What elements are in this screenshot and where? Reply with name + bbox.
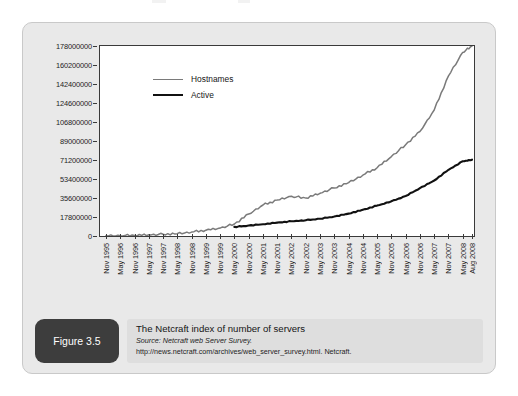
y-axis-tick-label: 106800000 [56,118,92,127]
y-axis-tick-mark [93,122,97,123]
x-axis-tick-label: Nov 2003 [330,243,339,274]
x-axis-tick-mark [135,234,136,239]
x-axis-tick-mark [149,234,150,239]
x-axis-tick-label: Nov 1996 [131,243,140,274]
y-axis-tick-mark [93,84,97,85]
y-axis-tick-label: 35600000 [60,194,92,203]
x-axis-tick-mark [334,234,335,239]
x-axis-tick-mark [120,234,121,239]
x-axis-tick-label: Nov 1995 [102,243,111,274]
legend-swatch-hostnames-icon [153,79,183,80]
legend-label-hostnames: Hostnames [191,74,233,84]
x-axis-tick-mark [249,234,250,239]
x-axis-tick-mark [163,234,164,239]
x-axis-tick-mark [472,234,473,239]
x-axis-tick-label: May 1997 [145,243,154,275]
x-axis-tick-mark [291,234,292,239]
y-axis-tick-label: 0 [88,232,92,241]
x-axis-tick-mark [463,234,464,239]
x-axis-tick-mark [448,234,449,239]
x-axis-tick-mark [434,234,435,239]
chart-legend: Hostnames Active [153,71,233,103]
x-axis-tick-label: Nov 2004 [359,243,368,274]
figure-number-badge: Figure 3.5 [35,319,119,363]
x-axis-tick-label: May 2001 [259,243,268,275]
legend-item-hostnames: Hostnames [153,71,233,87]
legend-label-active: Active [191,90,214,100]
y-axis-tick-mark [93,198,97,199]
series-line-active [234,160,472,227]
x-axis-tick-label: May 2005 [373,243,382,275]
x-axis-tick-mark [406,234,407,239]
y-axis-tick-mark [93,217,97,218]
y-axis-tick-label: 89000000 [60,137,92,146]
y-axis-tick-mark [93,46,97,47]
y-axis-tick-mark [93,160,97,161]
x-axis-tick-label: Nov 2005 [387,243,396,274]
x-axis-tick-mark [220,234,221,239]
y-axis: 0178000003560000053400000712000008900000… [23,45,97,237]
y-axis-tick-label: 71200000 [60,156,92,165]
chart-region: 0178000003560000053400000712000008900000… [23,23,497,311]
x-axis-tick-label: May 2007 [430,243,439,275]
x-axis-tick-mark [234,234,235,239]
x-axis-tick-label: Nov 2002 [302,243,311,274]
x-axis-tick-label: Nov 2006 [416,243,425,274]
x-axis: Nov 1995May 1996Nov 1996May 1997Nov 1997… [99,239,477,311]
figure-panel: 0178000003560000053400000712000008900000… [22,22,496,374]
x-axis-tick-label: Aug 2008 [468,243,477,274]
y-axis-tick-mark [93,141,97,142]
x-axis-tick-label: May 1998 [173,243,182,275]
x-axis-tick-label: May 2008 [459,243,468,275]
x-axis-tick-mark [391,234,392,239]
x-axis-tick-label: May 2000 [230,243,239,275]
x-axis-tick-label: Nov 1997 [159,243,168,274]
x-axis-tick-mark [377,234,378,239]
y-axis-tick-label: 53400000 [60,175,92,184]
x-axis-tick-mark [277,234,278,239]
x-axis-tick-mark [306,234,307,239]
y-axis-tick-label: 124600000 [56,99,92,108]
x-axis-tick-label: May 1999 [202,243,211,275]
x-axis-tick-label: May 2002 [287,243,296,275]
x-axis-tick-mark [177,234,178,239]
x-axis-tick-mark [192,234,193,239]
x-axis-tick-label: May 2004 [345,243,354,275]
x-axis-tick-label: Nov 2000 [245,243,254,274]
caption-source: Source: Netcraft web Server Survey. [136,335,475,346]
x-axis-tick-label: Nov 2007 [444,243,453,274]
y-axis-tick-label: 142400000 [56,80,92,89]
figure-number-label: Figure 3.5 [53,335,100,347]
x-axis-tick-label: Nov 1999 [216,243,225,274]
caption-url: http://news.netcraft.com/archives/web_se… [136,346,475,357]
figure-caption-bar: Figure 3.5 The Netcraft index of number … [35,319,483,363]
x-axis-tick-label: May 2006 [402,243,411,275]
legend-item-active: Active [153,87,233,103]
scan-artifact [152,0,166,3]
y-axis-tick-label: 178000000 [56,42,92,51]
caption-title: The Netcraft index of number of servers [136,323,475,335]
scan-artifact [238,0,250,3]
x-axis-tick-mark [420,234,421,239]
y-axis-tick-mark [93,103,97,104]
y-axis-tick-mark [93,179,97,180]
x-axis-tick-mark [206,234,207,239]
legend-swatch-active-icon [153,94,183,96]
x-axis-tick-label: May 1996 [116,243,125,275]
x-axis-tick-label: Nov 1998 [188,243,197,274]
x-axis-tick-mark [363,234,364,239]
y-axis-tick-mark [93,65,97,66]
figure-caption-text: The Netcraft index of number of servers … [127,319,483,363]
y-axis-tick-label: 160200000 [56,61,92,70]
y-axis-tick-label: 17800000 [60,213,92,222]
y-axis-tick-mark [93,236,97,237]
x-axis-tick-mark [320,234,321,239]
x-axis-tick-mark [349,234,350,239]
x-axis-tick-label: Nov 2001 [273,243,282,274]
x-axis-tick-mark [263,234,264,239]
x-axis-tick-mark [106,234,107,239]
x-axis-tick-label: May 2003 [316,243,325,275]
